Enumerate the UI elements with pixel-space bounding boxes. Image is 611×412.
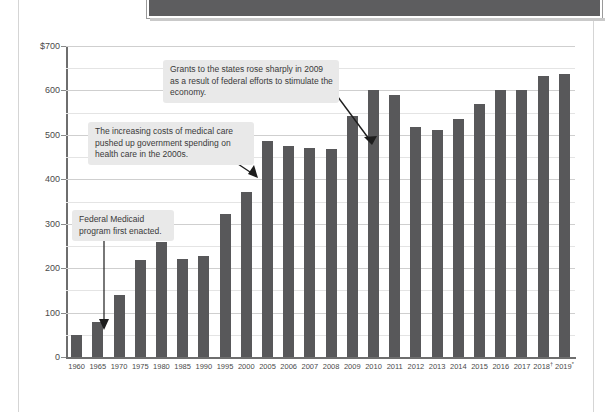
x-axis-tick-label: 2013: [427, 362, 448, 371]
x-axis-tick-label: 1960: [66, 362, 87, 371]
x-axis-tick-label: 2016: [490, 362, 511, 371]
x-axis-tick-label: 2012: [405, 362, 426, 371]
y-axis-tick-mark: [61, 46, 66, 47]
leader-line-grants: [330, 87, 390, 155]
x-axis-tick-label: 1965: [87, 362, 108, 371]
y-axis-tick-label: 600: [45, 85, 60, 95]
bar-1990: [198, 256, 209, 357]
y-axis-tick-mark: [61, 357, 66, 358]
bar-2015: [474, 104, 485, 357]
y-axis-tick-label: 400: [45, 174, 60, 184]
x-axis-tick-label: 2019*: [554, 362, 575, 371]
y-axis-tick-mark: [61, 135, 66, 136]
gridline: [66, 46, 575, 47]
y-axis-tick-label: $700: [40, 41, 60, 51]
bar-2011: [389, 95, 400, 357]
annotation-medicaid: Federal Medicaid program first enacted.: [72, 210, 174, 241]
x-axis-tick-label: 1985: [172, 362, 193, 371]
x-axis-tick-label: 1970: [108, 362, 129, 371]
y-axis-tick-mark: [61, 224, 66, 225]
x-axis-tick-label: 2018†: [533, 362, 554, 371]
y-axis-tick-label: 500: [45, 130, 60, 140]
x-axis-tick-label: 2014: [448, 362, 469, 371]
bar-2013: [432, 130, 443, 357]
x-axis-tick-label: 2015: [469, 362, 490, 371]
header-band-shadow: [150, 18, 605, 21]
y-axis-tick-mark: [61, 90, 66, 91]
bar-2014: [453, 119, 464, 357]
y-axis-tick-label: 0: [55, 352, 60, 362]
bar-2007: [304, 148, 315, 357]
x-axis-tick-label: 2008: [321, 362, 342, 371]
bar-2019: [559, 74, 570, 357]
x-axis-tick-label: 2017: [511, 362, 532, 371]
bar-1980: [156, 242, 167, 358]
bar-chart: 0100200300400500600$700 1960196519701975…: [0, 32, 611, 404]
bar-2006: [283, 146, 294, 357]
bar-2018: [538, 76, 549, 357]
x-axis-tick-label: 1995: [214, 362, 235, 371]
x-axis-tick-label: 1980: [151, 362, 172, 371]
bar-2008: [326, 149, 337, 357]
x-axis-tick-label: 2011: [384, 362, 405, 371]
x-axis-tick-label: 1975: [130, 362, 151, 371]
bar-1960: [71, 335, 82, 357]
x-axis-tick-label: 2000: [236, 362, 257, 371]
bar-1985: [177, 259, 188, 357]
x-axis-tick-label: 2006: [278, 362, 299, 371]
x-axis-tick-label: 2009: [342, 362, 363, 371]
y-axis-tick-mark: [61, 268, 66, 269]
y-axis-tick-mark: [61, 179, 66, 180]
bar-2000: [241, 192, 252, 357]
y-axis-tick-label: 200: [45, 263, 60, 273]
bar-2012: [410, 127, 421, 357]
x-axis-tick-label: 2010: [363, 362, 384, 371]
x-axis: [66, 357, 576, 359]
bar-1995: [220, 214, 231, 358]
annotation-medical: The increasing costs of medical care pus…: [88, 122, 254, 165]
x-axis-tick-label: 2005: [257, 362, 278, 371]
header-band: [147, 0, 602, 18]
x-axis-tick-label: 1990: [193, 362, 214, 371]
bar-2016: [495, 90, 506, 357]
bar-1970: [114, 295, 125, 357]
bar-1975: [135, 260, 146, 357]
y-axis-tick-mark: [61, 313, 66, 314]
y-axis-tick-label: 100: [45, 308, 60, 318]
bar-2017: [516, 90, 527, 357]
leader-line-medicaid: [96, 238, 112, 332]
y-axis-tick-label: 300: [45, 219, 60, 229]
annotation-grants: Grants to the states rose sharply in 200…: [163, 60, 339, 103]
x-axis-tick-label: 2007: [299, 362, 320, 371]
